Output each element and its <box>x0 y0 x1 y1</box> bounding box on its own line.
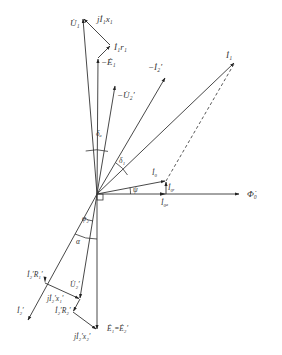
label-minus-u2-prime: −U̇₂′ <box>117 90 136 100</box>
i2-r1-arrowhead-icon <box>44 277 47 284</box>
vector-i1 <box>97 63 234 194</box>
label-i0a: İ₀ₐ <box>160 198 168 207</box>
right-angle-mark <box>97 194 103 200</box>
label-i1: İ₁ <box>225 50 232 60</box>
vector-u1 <box>83 19 97 194</box>
label-i2-prime: İ₂′ <box>16 306 24 315</box>
label-u2-prime: U̇₂′ <box>70 280 80 289</box>
vector-i0 <box>97 181 165 194</box>
label-u1: U̇₁ <box>70 18 80 28</box>
phasor-diagram: U̇₁ jİ₁x₁ İ₁r₁ −Ė₁ −U̇₂′ −İ₂′ İ₁ İ₀ İ₀ᵣ … <box>0 0 282 355</box>
label-phi0: Φ̇₀ <box>247 189 257 199</box>
label-j-i2-x2-prime: jİ₂′x₂′ <box>73 332 91 341</box>
label-j-i1-x1: jİ₁x₁ <box>96 14 113 24</box>
label-delta-1: δ₁ <box>119 156 125 165</box>
dashed-i0-to-i1 <box>166 64 234 181</box>
label-phi-2: φ₂ <box>82 214 89 223</box>
label-i2-r1-prime: İ₂′R₁′ <box>26 270 43 279</box>
label-alpha: α <box>76 237 81 246</box>
label-i0: İ₀ <box>151 168 157 177</box>
label-e1-equals-e2-prime: Ė₁=Ė₂′ <box>106 324 128 333</box>
label-psi: ψ <box>133 185 138 194</box>
vector-i2-r2-prime <box>74 299 81 311</box>
vector-j-i2-x2-prime <box>73 312 96 329</box>
label-i1-r1: İ₁r₁ <box>113 42 127 52</box>
label-j-i2-x1-prime: jİ₂′x₁′ <box>46 294 64 303</box>
vector-minus-e1 <box>97 59 98 194</box>
i0a-arrowhead-icon <box>160 192 166 196</box>
label-minus-i2-prime: −İ₂′ <box>148 62 163 72</box>
label-delta-a: δₐ <box>96 129 102 138</box>
label-minus-e1: −Ė₁ <box>101 57 116 67</box>
label-i2-r2-prime: İ₂′R₂′ <box>54 306 71 315</box>
arc-psi <box>130 188 131 194</box>
label-i0r: İ₀ᵣ <box>167 183 175 192</box>
